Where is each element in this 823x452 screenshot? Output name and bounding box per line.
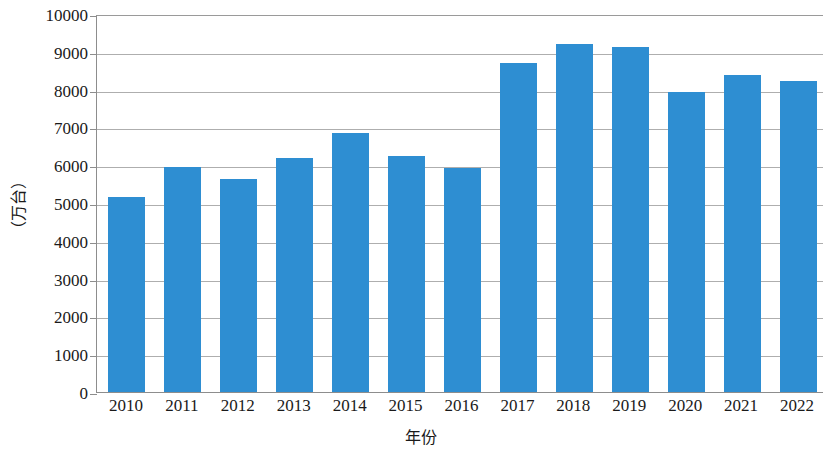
x-tick-label: 2018 [556, 396, 590, 416]
bar [668, 92, 705, 392]
x-tick-label: 2013 [277, 396, 311, 416]
bar [332, 133, 369, 392]
y-tick-label: 2000 [54, 309, 88, 326]
x-tick-label: 2010 [109, 396, 143, 416]
x-tick-label: 2019 [612, 396, 646, 416]
bar-series [97, 16, 823, 392]
y-tick-mark [90, 243, 97, 244]
bar [108, 197, 145, 392]
y-tick-mark [90, 205, 97, 206]
y-tick-mark [90, 167, 97, 168]
bar [220, 179, 257, 392]
y-tick-label: 4000 [54, 233, 88, 250]
bar-chart: （万台） 10000900080007000600050004000300020… [0, 0, 823, 452]
x-axis-title-text: 年份 [405, 424, 437, 448]
x-tick-label: 2017 [500, 396, 534, 416]
y-tick-label: 0 [80, 385, 89, 402]
plot-area [96, 15, 823, 393]
x-tick-label: 2016 [445, 396, 479, 416]
x-tick-label: 2014 [333, 396, 367, 416]
y-tick-mark [90, 54, 97, 55]
y-tick-label: 5000 [54, 196, 88, 213]
y-tick-label: 6000 [54, 158, 88, 175]
x-axis-title: 年份 [0, 424, 823, 448]
y-tick-label: 3000 [54, 271, 88, 288]
bar [164, 167, 201, 392]
bar [724, 75, 761, 392]
x-tick-label: 2011 [165, 396, 198, 416]
y-axis-tick-labels: 1000090008000700060005000400030002000100… [18, 15, 88, 393]
y-tick-mark [90, 356, 97, 357]
bar [780, 81, 817, 392]
bar [276, 158, 313, 392]
y-tick-label: 9000 [54, 44, 88, 61]
x-tick-label: 2015 [389, 396, 423, 416]
x-tick-label: 2022 [780, 396, 814, 416]
y-tick-mark [90, 281, 97, 282]
bar [500, 63, 537, 392]
bar [612, 47, 649, 392]
x-axis-tick-labels: 2010201120122013201420152016201720182019… [96, 396, 823, 422]
y-tick-mark [90, 318, 97, 319]
bar [556, 44, 593, 392]
y-tick-label: 7000 [54, 120, 88, 137]
y-tick-mark [90, 394, 97, 395]
x-tick-label: 2020 [668, 396, 702, 416]
x-tick-label: 2012 [221, 396, 255, 416]
y-tick-label: 1000 [54, 347, 88, 364]
y-tick-mark [90, 92, 97, 93]
bar [388, 156, 425, 392]
x-tick-label: 2021 [724, 396, 758, 416]
y-tick-label: 8000 [54, 82, 88, 99]
bar [444, 168, 481, 392]
y-tick-label: 10000 [46, 7, 89, 24]
y-tick-mark [90, 16, 97, 17]
y-tick-mark [90, 129, 97, 130]
